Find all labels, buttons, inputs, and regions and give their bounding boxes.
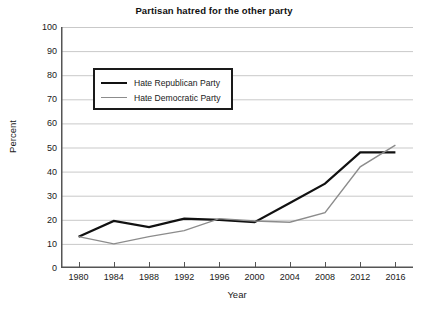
y-axis-tick-label: 30 bbox=[5, 191, 57, 201]
y-axis-tick-label: 0 bbox=[5, 263, 57, 273]
x-axis-title: Year bbox=[61, 289, 413, 300]
x-axis-tick-label: 2000 bbox=[245, 272, 265, 282]
x-axis-tick-label: 2012 bbox=[350, 272, 370, 282]
x-axis-tick-label: 1992 bbox=[174, 272, 194, 282]
series-line-hate-democratic-party bbox=[79, 145, 396, 244]
y-axis-tick-label: 100 bbox=[5, 22, 57, 32]
x-axis-tick-label: 2004 bbox=[280, 272, 300, 282]
legend-line-swatch-icon bbox=[101, 97, 127, 98]
x-axis-tick-label: 1984 bbox=[104, 272, 124, 282]
y-axis-tick-label: 90 bbox=[5, 46, 57, 56]
x-axis-tick-label: 1996 bbox=[209, 272, 229, 282]
y-axis-tick-label: 80 bbox=[5, 70, 57, 80]
x-axis-tick-labels: 1980198419881992199620002004200820122016 bbox=[61, 272, 413, 288]
plot-area bbox=[61, 27, 413, 268]
gridlines bbox=[61, 28, 413, 245]
legend-item-label: Hate Republican Party bbox=[134, 78, 220, 88]
x-axis-ticks bbox=[80, 262, 396, 267]
series-lines bbox=[79, 145, 396, 244]
legend-item-label: Hate Democratic Party bbox=[134, 93, 220, 103]
chart-legend: Hate Republican Party Hate Democratic Pa… bbox=[93, 68, 233, 110]
legend-item-hate-republican-party: Hate Republican Party bbox=[101, 75, 225, 90]
y-axis-tick-label: 20 bbox=[5, 215, 57, 225]
x-axis-tick-label: 1980 bbox=[69, 272, 89, 282]
legend-item-hate-democratic-party: Hate Democratic Party bbox=[101, 90, 225, 105]
x-axis-tick-label: 2016 bbox=[385, 272, 405, 282]
chart-figure: Partisan hatred for the other party 0102… bbox=[0, 0, 428, 316]
chart-title: Partisan hatred for the other party bbox=[0, 5, 428, 16]
y-axis-tick-label: 70 bbox=[5, 94, 57, 104]
x-axis-tick-label: 1988 bbox=[139, 272, 159, 282]
y-axis-title: Percent bbox=[7, 107, 18, 167]
series-line-hate-republican-party bbox=[79, 152, 396, 236]
y-axis-tick-label: 10 bbox=[5, 239, 57, 249]
chart-svg bbox=[61, 27, 413, 268]
legend-line-swatch-icon bbox=[101, 82, 127, 84]
y-axis-tick-label: 40 bbox=[5, 167, 57, 177]
x-axis-tick-label: 2008 bbox=[315, 272, 335, 282]
